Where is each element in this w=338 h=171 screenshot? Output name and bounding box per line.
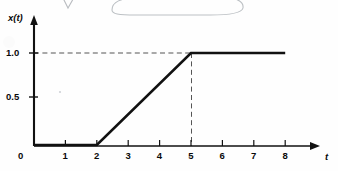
y-tick-label-0-5: 0.5 (6, 92, 19, 101)
x-tick-label-5: 5 (188, 151, 193, 160)
x-tick-label-4: 4 (157, 151, 162, 160)
x-tick-label-3: 3 (125, 151, 130, 160)
figure-canvas: x(t) t 1.0 0.5 0 1 2 3 4 5 6 7 8 (0, 0, 338, 171)
x-tick-label-2: 2 (94, 151, 99, 160)
y-tick-label-0: 0 (18, 151, 23, 160)
x-tick-label-6: 6 (220, 151, 225, 160)
signal-plot (0, 0, 338, 171)
x-tick-label-7: 7 (251, 151, 256, 160)
y-axis-arrow (30, 15, 38, 25)
x-axis-arrow (310, 142, 320, 150)
x-tick-label-1: 1 (63, 151, 68, 160)
x-axis-label: t (325, 152, 328, 161)
signal-curve (34, 53, 285, 145)
x-tick-label-8: 8 (282, 151, 287, 160)
y-axis-label: x(t) (8, 13, 23, 22)
y-tick-label-1-0: 1.0 (6, 48, 19, 57)
